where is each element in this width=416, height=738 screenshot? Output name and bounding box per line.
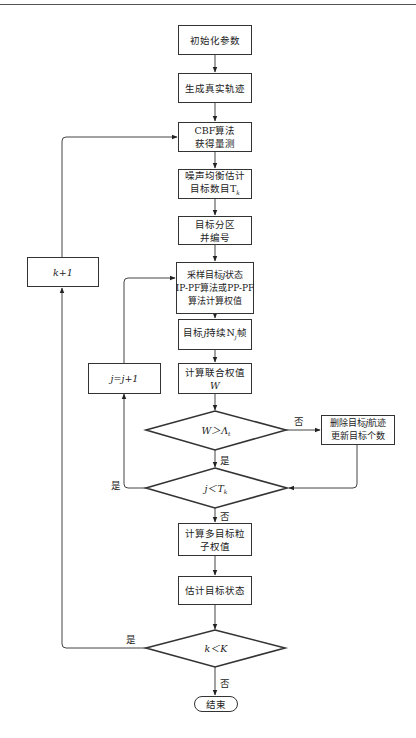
persist-frames-box: 目标j持续Nj帧 <box>178 319 252 350</box>
cbf-line1: CBF算法 <box>195 124 236 137</box>
joint-weight-line1: 计算联合权值 <box>185 366 245 379</box>
sample-state-box: 采样目标j状态 IP-PF算法或PP-PF 算法计算权值 <box>176 262 254 314</box>
delete-track-box: 删除目标j航迹 更新目标个数 <box>321 415 395 445</box>
noise-line1: 噪声均衡估计 <box>185 169 245 182</box>
init-params-box: 初始化参数 <box>178 25 252 55</box>
noise-line2: 目标数目Tk <box>190 182 240 199</box>
decision-k-label: k＜K <box>205 641 228 655</box>
multi-weight-line2: 子权值 <box>200 540 230 553</box>
delete-line2: 更新目标个数 <box>331 430 385 443</box>
edge-label-j-no: 否 <box>220 509 230 523</box>
generate-tracks-box: 生成真实轨迹 <box>178 73 252 103</box>
estimate-label: 估计目标状态 <box>185 584 245 597</box>
edge-label-k-no: 否 <box>220 676 230 690</box>
joint-weight-line2: W <box>210 379 220 392</box>
decision-j-label: j＜Tk <box>205 481 228 496</box>
edge-label-w-yes: 是 <box>220 453 230 467</box>
sample-line3: 算法计算权值 <box>188 295 242 308</box>
end-terminal: 结束 <box>194 696 238 712</box>
cbf-line2: 获得量测 <box>195 137 235 150</box>
init-params-label: 初始化参数 <box>190 34 240 47</box>
k-increment-label: k+1 <box>53 266 73 279</box>
end-label: 结束 <box>206 697 226 711</box>
estimate-state-box: 估计目标状态 <box>178 576 252 605</box>
cbf-measurement-box: CBF算法 获得量测 <box>178 122 252 152</box>
decision-w-threshold-label: W＞Λt <box>201 423 230 438</box>
partition-line1: 目标分区 <box>195 218 235 231</box>
j-increment-label: j=j+1 <box>111 372 139 385</box>
j-increment-box: j=j+1 <box>88 363 161 394</box>
sample-line1: 采样目标j状态 <box>187 269 244 282</box>
partition-line2: 并编号 <box>200 231 230 244</box>
delete-line1: 删除目标j航迹 <box>330 417 387 430</box>
edge-label-k-yes: 是 <box>126 632 136 646</box>
joint-weight-box: 计算联合权值 W <box>178 363 252 394</box>
k-increment-box: k+1 <box>27 257 99 287</box>
generate-tracks-label: 生成真实轨迹 <box>185 82 245 95</box>
sample-line2: IP-PF算法或PP-PF <box>176 282 254 295</box>
multi-weight-line1: 计算多目标粒 <box>185 527 245 540</box>
partition-box: 目标分区 并编号 <box>178 216 252 245</box>
multi-target-weight-box: 计算多目标粒 子权值 <box>178 523 252 556</box>
persist-label: 目标j持续Nj帧 <box>183 326 246 343</box>
edge-label-j-yes: 是 <box>111 478 121 492</box>
edge-label-w-no: 否 <box>294 414 304 428</box>
noise-estimate-box: 噪声均衡估计 目标数目Tk <box>178 169 252 199</box>
